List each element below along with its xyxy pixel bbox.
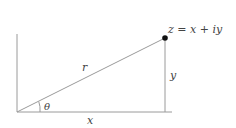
hypotenuse-label: r xyxy=(82,61,88,74)
point-z xyxy=(162,35,168,41)
opposite-label: y xyxy=(169,69,177,82)
adjacent-label: x xyxy=(87,114,94,127)
angle-label: θ xyxy=(44,101,50,112)
angle-arc xyxy=(39,102,40,112)
hypotenuse-line xyxy=(17,38,165,112)
point-label: z = x + iy xyxy=(167,23,223,36)
polar-diagram: z = x + iy r θ y x xyxy=(0,0,236,128)
